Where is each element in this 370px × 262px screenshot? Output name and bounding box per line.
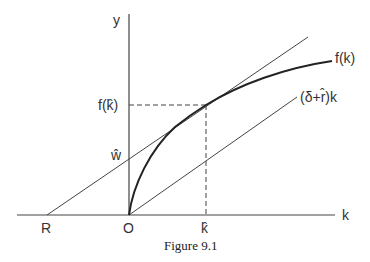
production-function-label: f(k): [335, 50, 355, 66]
diagram-figure: y k O R k̂ f(k̂) ŵ f(k) (δ+r̂)k Figure 9…: [0, 0, 370, 262]
figure-caption: Figure 9.1: [164, 238, 217, 253]
x-axis-label: k: [342, 207, 350, 223]
w-hat-label: ŵ: [110, 147, 122, 163]
ray-label: (δ+r̂)k: [300, 88, 338, 105]
depreciation-ray: [129, 97, 297, 215]
r-point-label: R: [41, 220, 51, 236]
f-k-hat-label: f(k̂): [98, 97, 118, 113]
k-hat-label: k̂: [201, 220, 209, 236]
origin-label: O: [123, 220, 134, 236]
y-axis-label: y: [113, 12, 120, 28]
